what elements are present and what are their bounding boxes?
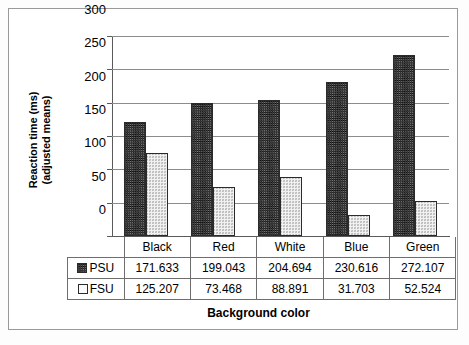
bar-group: [112, 36, 179, 236]
bar-group: [179, 36, 246, 236]
y-axis-title-line-1: Reaction time (ms): [27, 60, 40, 220]
bar-fsu-blue: [348, 215, 370, 236]
table-row: PSU171.633199.043204.694230.616272.107: [68, 258, 456, 279]
y-axis-tick-label: 50: [66, 170, 106, 183]
y-axis-tick-labels: 050100150200250300: [62, 9, 106, 259]
category-header-green: Green: [390, 237, 456, 258]
legend-swatch-psu-icon: [77, 263, 87, 273]
table-row: FSU125.20773.46888.89131.70352.524: [68, 279, 456, 300]
bar-psu-white: [258, 100, 280, 236]
bar-group: [247, 36, 314, 236]
y-axis-title: Reaction time (ms) (adjusted means): [27, 60, 53, 220]
legend-swatch-fsu-icon: [78, 284, 88, 294]
y-axis-tick-label: 0: [66, 203, 106, 216]
bar-group: [382, 36, 449, 236]
table-row-categories: BlackRedWhiteBlueGreen: [68, 237, 456, 258]
bar-fsu-red: [213, 187, 235, 236]
value-fsu-red: 73.468: [190, 279, 256, 300]
value-psu-blue: 230.616: [323, 258, 389, 279]
category-header-red: Red: [190, 237, 256, 258]
legend-label: FSU: [90, 282, 114, 296]
chart-frame: Reaction time (ms) (adjusted means) 0501…: [8, 8, 458, 330]
figure: Reaction time (ms) (adjusted means) 0501…: [0, 0, 469, 345]
plot-area: [112, 36, 449, 236]
bar-psu-red: [191, 103, 213, 236]
value-psu-white: 204.694: [257, 258, 323, 279]
bar-fsu-black: [146, 153, 168, 236]
y-axis-tick-label: 250: [66, 36, 106, 49]
bar-psu-blue: [326, 82, 348, 236]
value-psu-green: 272.107: [390, 258, 456, 279]
bar-psu-black: [124, 122, 146, 236]
bar-group: [314, 36, 381, 236]
table-corner-cell: [68, 237, 125, 258]
value-fsu-green: 52.524: [390, 279, 456, 300]
bar-fsu-white: [280, 177, 302, 236]
value-fsu-white: 88.891: [257, 279, 323, 300]
bar-fsu-green: [415, 201, 437, 236]
value-fsu-black: 125.207: [124, 279, 190, 300]
bar-psu-green: [393, 55, 415, 236]
category-header-blue: Blue: [323, 237, 389, 258]
legend-item-fsu: FSU: [68, 279, 125, 300]
y-axis-tick-label: 150: [66, 103, 106, 116]
value-psu-black: 171.633: [124, 258, 190, 279]
y-axis-title-line-2: (adjusted means): [40, 60, 53, 220]
y-axis-tick-label: 300: [66, 3, 106, 16]
y-axis-tick-label: 100: [66, 136, 106, 149]
category-header-black: Black: [124, 237, 190, 258]
legend-label: PSU: [89, 261, 114, 275]
value-psu-red: 199.043: [190, 258, 256, 279]
y-axis-tick-label: 200: [66, 70, 106, 83]
category-header-white: White: [257, 237, 323, 258]
x-axis-title: Background color: [67, 306, 450, 320]
data-table: BlackRedWhiteBlueGreenPSU171.633199.0432…: [67, 237, 456, 300]
legend-item-psu: PSU: [68, 258, 125, 279]
value-fsu-blue: 31.703: [323, 279, 389, 300]
